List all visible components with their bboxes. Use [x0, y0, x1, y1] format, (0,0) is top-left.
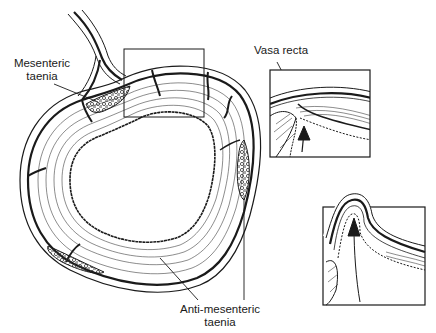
lower-taenia-band [48, 246, 104, 273]
diagram-canvas [0, 0, 436, 333]
inset-1-panel [270, 70, 372, 157]
mesentery-icon [68, 10, 126, 100]
anti-mesenteric-label-line2: taenia [170, 316, 270, 329]
inset-source-box [124, 49, 204, 117]
vasa-recta-label: Vasa recta [246, 44, 316, 57]
mesenteric-taenia-label-line1: Mesenteric [2, 57, 82, 70]
mesenteric-taenia-band [86, 86, 130, 112]
anti-mesenteric-taenia-label: Anti-mesenteric taenia [170, 303, 270, 329]
anti-mesenteric-taenia-band [237, 140, 249, 200]
mesenteric-taenia-label-line2: taenia [2, 70, 82, 83]
vasa-recta-label-line1: Vasa recta [246, 44, 316, 57]
anti-mesenteric-label-line1: Anti-mesenteric [170, 303, 270, 316]
mesenteric-taenia-label: Mesenteric taenia [2, 57, 82, 83]
inset-2-panel [323, 194, 425, 305]
